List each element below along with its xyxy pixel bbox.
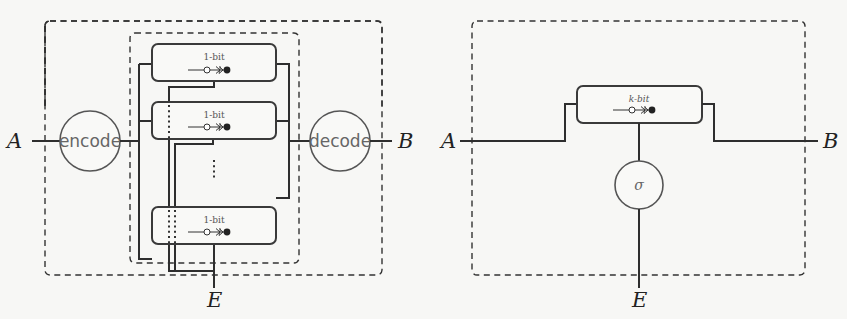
left-bus: [139, 64, 152, 259]
diagram-canvas: A encode 1-bit 1-bit: [0, 0, 847, 319]
sigma-label: σ: [634, 177, 644, 193]
channel-3-label: 1-bit: [203, 215, 224, 225]
channel-box-3: 1-bit: [152, 207, 276, 244]
right-bus: [276, 64, 289, 198]
k-bit-label: k-bit: [629, 94, 650, 104]
input-label-a: A: [5, 129, 22, 153]
right-diagram: A k-bit B σ E: [439, 21, 838, 312]
right-env-label-e: E: [631, 288, 647, 312]
encode-label: encode: [59, 131, 121, 151]
decode-label: decode: [309, 131, 371, 151]
right-output-label-b: B: [822, 129, 838, 153]
channel-box-2: 1-bit: [152, 102, 276, 139]
right-input-label-a: A: [439, 129, 456, 153]
output-label-b: B: [397, 129, 413, 153]
right-input-wire: [460, 104, 577, 141]
channel-2-label: 1-bit: [203, 110, 224, 120]
channel-1-label: 1-bit: [203, 52, 224, 62]
channel-box-1: 1-bit: [152, 44, 276, 81]
k-bit-channel-box: k-bit: [577, 86, 702, 123]
left-diagram: A encode 1-bit 1-bit: [5, 21, 413, 312]
right-output-wire: [702, 104, 818, 141]
env-label-e: E: [206, 288, 222, 312]
env-wire-2: [175, 139, 213, 271]
